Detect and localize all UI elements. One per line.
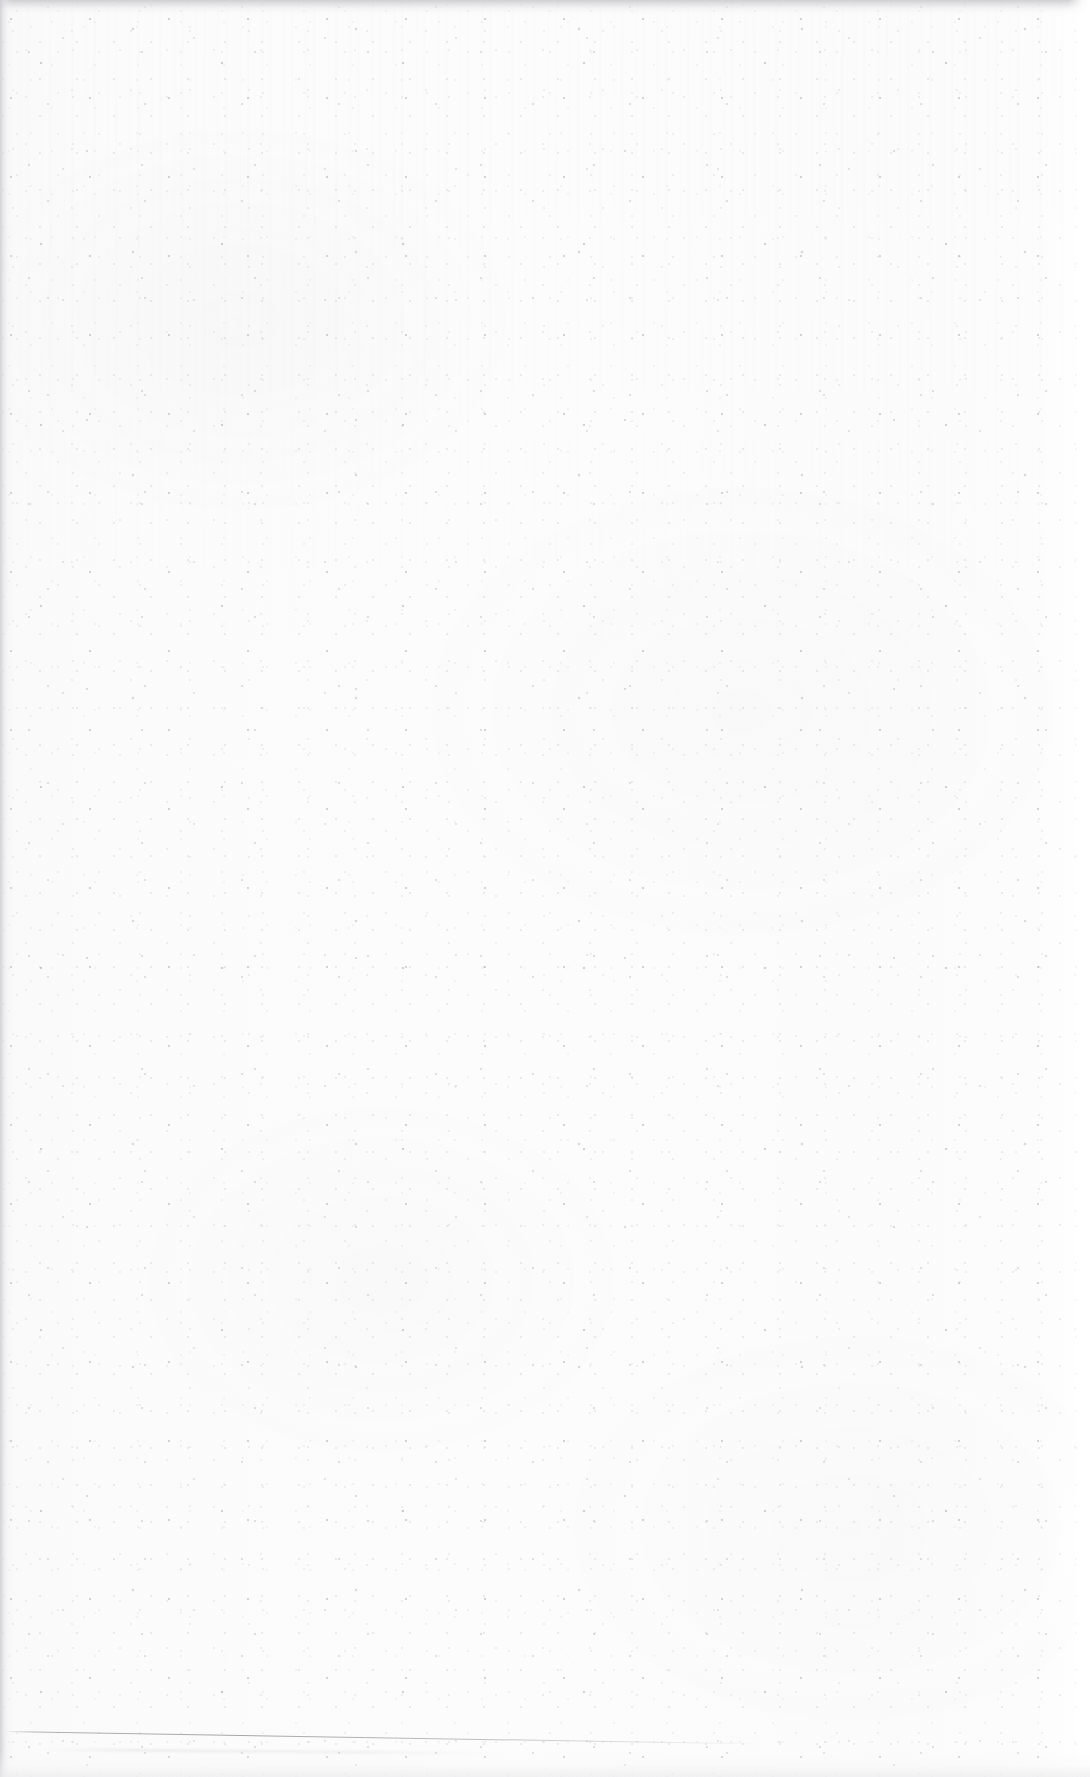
page-content-area [0, 0, 1090, 1777]
scanned-page [0, 0, 1090, 1777]
